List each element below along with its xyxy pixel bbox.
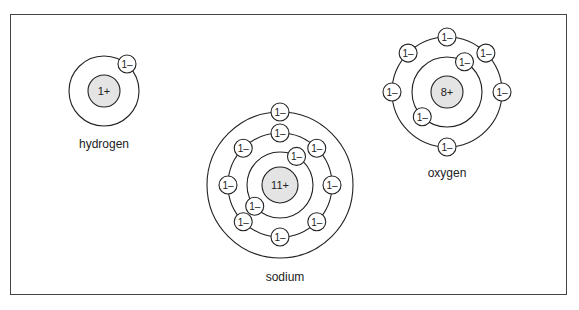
- nucleus-label: 8+: [441, 86, 454, 98]
- svg-text:1–: 1–: [496, 87, 508, 98]
- svg-text:1–: 1–: [386, 87, 398, 98]
- electron: 1–: [118, 55, 136, 73]
- electron: 1–: [308, 213, 326, 231]
- electron: 1–: [234, 213, 252, 231]
- svg-text:1–: 1–: [441, 142, 453, 153]
- label-sodium: sodium: [266, 270, 305, 284]
- svg-text:1–: 1–: [417, 112, 429, 123]
- svg-text:1–: 1–: [274, 232, 286, 243]
- label-hydrogen: hydrogen: [79, 137, 129, 151]
- nucleus-label: 11+: [271, 179, 289, 191]
- svg-text:1–: 1–: [121, 59, 133, 70]
- electron: 1–: [308, 139, 326, 157]
- svg-text:1–: 1–: [459, 57, 471, 68]
- svg-text:1–: 1–: [238, 143, 250, 154]
- atom-hydrogen: 1+ 1–: [69, 55, 139, 126]
- electron: 1–: [493, 83, 511, 101]
- svg-text:1–: 1–: [249, 201, 261, 212]
- electron: 1–: [288, 147, 306, 165]
- electron: 1–: [323, 176, 341, 194]
- svg-text:1–: 1–: [274, 107, 286, 118]
- nucleus-label: 1+: [98, 85, 111, 97]
- electron: 1–: [477, 44, 495, 62]
- svg-text:1–: 1–: [311, 217, 323, 228]
- electron: 1–: [456, 53, 474, 71]
- svg-text:1–: 1–: [238, 217, 250, 228]
- svg-text:1–: 1–: [274, 128, 286, 139]
- svg-text:1–: 1–: [326, 180, 338, 191]
- electron: 1–: [438, 138, 456, 156]
- atom-oxygen: 8+1–1–1–1–1–1–1–1–: [383, 28, 511, 156]
- svg-text:1–: 1–: [222, 180, 234, 191]
- electron: 1–: [383, 83, 401, 101]
- atom-diagram: 1+ 1– 11+1–1–1–1–1–1–1–1–1–1–1– 8+1–1–1–…: [0, 0, 579, 310]
- label-oxygen: oxygen: [428, 166, 467, 180]
- electron: 1–: [271, 124, 289, 142]
- electron: 1–: [413, 108, 431, 126]
- svg-text:1–: 1–: [403, 48, 415, 59]
- electron: 1–: [219, 176, 237, 194]
- electron: 1–: [246, 197, 264, 215]
- svg-text:1–: 1–: [441, 32, 453, 43]
- svg-text:1–: 1–: [480, 48, 492, 59]
- atom-sodium: 11+1–1–1–1–1–1–1–1–1–1–1–: [207, 103, 353, 258]
- electron: 1–: [271, 103, 289, 121]
- electron: 1–: [234, 139, 252, 157]
- electron: 1–: [438, 28, 456, 46]
- svg-text:1–: 1–: [311, 143, 323, 154]
- electron: 1–: [399, 44, 417, 62]
- electron: 1–: [271, 228, 289, 246]
- svg-text:1–: 1–: [291, 151, 303, 162]
